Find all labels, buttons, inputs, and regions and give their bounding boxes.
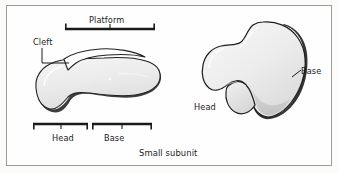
ribosome-small-subunit-figure: Platform Cleft Head Base Base Head Small… — [0, 0, 339, 173]
label-cleft: Cleft — [33, 37, 52, 47]
base-bracket-left — [92, 124, 152, 130]
left-shape-specular-dot — [109, 78, 111, 80]
label-head-right: Head — [194, 102, 216, 112]
right-shape-group — [202, 22, 307, 119]
left-shape-body — [36, 58, 160, 109]
figure-caption: Small subunit — [139, 148, 197, 158]
head-bracket-left — [33, 124, 88, 130]
label-base-left: Base — [104, 133, 124, 143]
label-head-left: Head — [52, 133, 74, 143]
left-shape-group — [36, 49, 161, 113]
label-platform: Platform — [89, 15, 124, 25]
label-base-right: Base — [301, 66, 321, 76]
